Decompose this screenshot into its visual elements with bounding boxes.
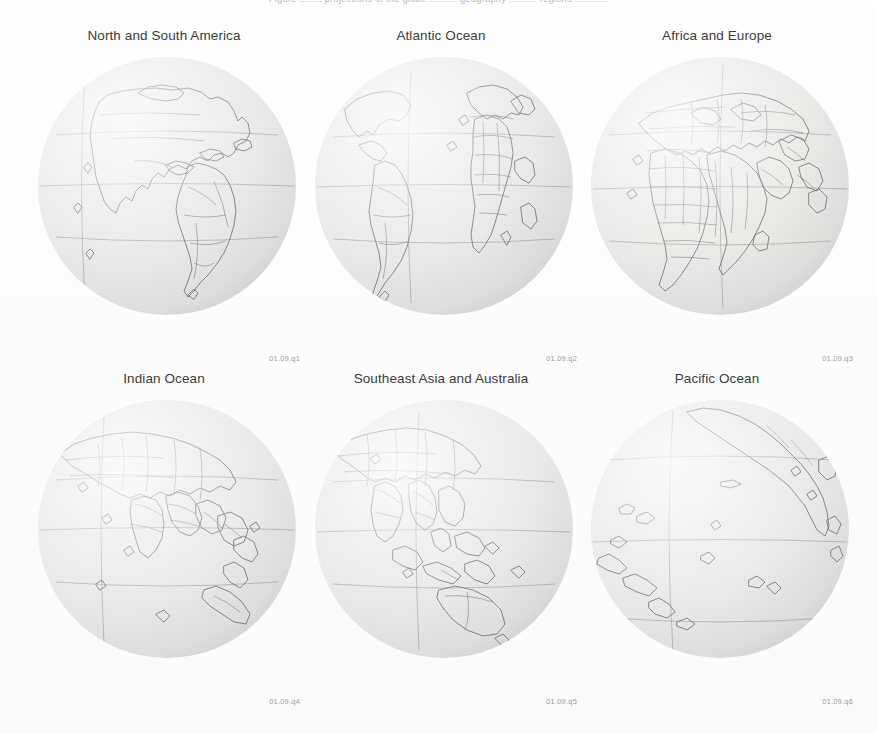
country-border-group bbox=[767, 426, 813, 466]
graticule-group bbox=[40, 71, 294, 301]
globe-stage[interactable] bbox=[591, 57, 849, 315]
figure-caption: Atlantic Ocean bbox=[295, 28, 587, 43]
figure-caption: Indian Ocean bbox=[18, 371, 310, 386]
globe-southeast-asia-and-australia[interactable] bbox=[315, 400, 573, 658]
globe-pacific-ocean[interactable] bbox=[591, 400, 849, 658]
figure-pacific-ocean[interactable]: Pacific Ocean 01.09.q6 bbox=[571, 371, 863, 716]
graticule-group bbox=[593, 65, 847, 309]
globe-map-svg bbox=[315, 57, 573, 315]
globe-map-svg bbox=[591, 57, 849, 315]
country-border-group bbox=[100, 113, 228, 279]
globe-map-svg bbox=[38, 57, 296, 315]
graticule-group bbox=[593, 410, 847, 652]
coastline-group bbox=[627, 93, 827, 291]
coastline-group bbox=[74, 85, 252, 299]
figure-caption: Southeast Asia and Australia bbox=[295, 371, 587, 386]
globe-indian-ocean[interactable] bbox=[38, 400, 296, 658]
globe-atlantic-ocean[interactable] bbox=[315, 57, 573, 315]
figure-id-label: 01.09.q6 bbox=[822, 697, 853, 706]
figure-southeast-asia-and-australia[interactable]: Southeast Asia and Australia bbox=[295, 371, 587, 716]
figure-id-label: 01.09.q3 bbox=[822, 354, 853, 363]
globe-africa-and-europe[interactable] bbox=[591, 57, 849, 315]
figure-atlantic-ocean[interactable]: Atlantic Ocean bbox=[295, 28, 587, 373]
coastline-group bbox=[597, 408, 843, 630]
atlas-page: Figure ........ projections of the globe… bbox=[0, 0, 877, 734]
graticule-group bbox=[317, 71, 571, 303]
globe-map-svg bbox=[315, 400, 573, 658]
figure-caption: North and South America bbox=[18, 28, 310, 43]
globe-stage[interactable] bbox=[38, 57, 296, 315]
globe-stage[interactable] bbox=[315, 57, 573, 315]
globe-stage[interactable] bbox=[591, 400, 849, 658]
globe-map-svg bbox=[591, 400, 849, 658]
globe-figure-grid: North and South America bbox=[0, 0, 877, 734]
coastline-group bbox=[333, 428, 525, 646]
country-border-group bbox=[373, 115, 513, 279]
figure-north-and-south-america[interactable]: North and South America bbox=[18, 28, 310, 373]
figure-indian-ocean[interactable]: Indian Ocean bbox=[18, 371, 310, 716]
globe-north-and-south-america[interactable] bbox=[38, 57, 296, 315]
globe-stage[interactable] bbox=[315, 400, 573, 658]
figure-caption: Africa and Europe bbox=[571, 28, 863, 43]
graticule-group bbox=[317, 412, 571, 650]
figure-caption: Pacific Ocean bbox=[571, 371, 863, 386]
figure-africa-and-europe[interactable]: Africa and Europe bbox=[571, 28, 863, 373]
graticule-group bbox=[40, 416, 294, 644]
globe-map-svg bbox=[38, 400, 296, 658]
country-border-group bbox=[645, 99, 815, 259]
globe-stage[interactable] bbox=[38, 400, 296, 658]
